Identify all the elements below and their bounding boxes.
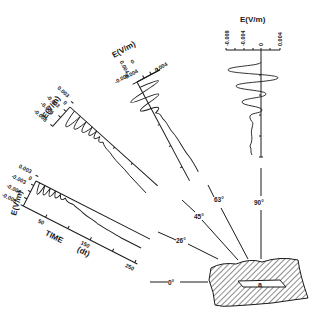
xtick: 250 [124, 262, 135, 272]
y-axis-label: E(V/m) [240, 15, 266, 24]
xtick: 50 [37, 218, 45, 226]
conducting-plane: a [209, 258, 308, 306]
angle-63-label: 63° [214, 196, 224, 203]
angle-90-label: 90° [254, 199, 264, 206]
angle-26-label: 26° [176, 237, 186, 244]
aperture-slot [238, 280, 286, 287]
ytick: 0 [28, 175, 33, 182]
ytick: 0.003 [56, 85, 70, 99]
ytick: 0.004 [154, 60, 170, 73]
ytick: 0 [62, 99, 68, 106]
ytick: 0 [130, 58, 136, 65]
ytick: -0.004 [240, 29, 246, 46]
ytick: -0.008 [224, 30, 230, 46]
ytick: -0.003 [11, 173, 28, 185]
y-axis-label: E(V/m) [111, 39, 138, 60]
aperture-label: a [258, 281, 262, 288]
ytick: 0 [258, 43, 264, 46]
panel-90deg: E(V/m) -0.008 -0.004 0 0.004 [224, 15, 283, 157]
x-axis-unit: (dt) [76, 245, 92, 259]
angle-0-label: 0° [168, 279, 175, 286]
panel-0deg: 0.003 0 -0.003 -0.006 -0.008 50 150 250 … [0, 162, 154, 280]
y-axis-label: E(V/m) [9, 189, 24, 216]
radiation-pattern-diagram: a 0° 26° 45° 63° 90° 0.003 0 -0.003 -0.0… [0, 0, 327, 321]
ytick: 0.003 [18, 163, 33, 175]
angle-45-label: 45° [194, 213, 204, 220]
ytick: 0.004 [277, 31, 283, 46]
x-axis-label: TIME [44, 228, 66, 245]
ytick: -0.008 [114, 72, 131, 85]
